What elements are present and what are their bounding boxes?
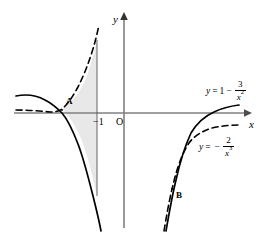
equation-dashed-lhs: y bbox=[199, 142, 203, 152]
equation-solid-lhs: y bbox=[206, 86, 210, 96]
point-b-marker bbox=[171, 188, 173, 190]
equation-solid-leading: 1 bbox=[220, 86, 225, 96]
equation-solid-fraction: 3 x2 bbox=[235, 80, 246, 102]
point-label-b: B bbox=[176, 191, 182, 200]
point-a-marker bbox=[61, 109, 63, 111]
equation-dashed-denominator: x3 bbox=[223, 147, 234, 159]
equation-solid-denominator: x2 bbox=[235, 91, 246, 103]
equation-solid-equals: = bbox=[212, 86, 217, 96]
x-axis-arrowhead bbox=[244, 109, 252, 117]
x-tick-label-minus-1: −1 bbox=[93, 117, 104, 127]
x-axis-label: x bbox=[249, 119, 254, 130]
equation-solid-denominator-exponent: 2 bbox=[241, 88, 244, 95]
point-label-a: A bbox=[66, 97, 73, 106]
equation-solid-label: y = 1 − 3 x2 bbox=[206, 80, 247, 102]
equation-dashed-equals: = bbox=[205, 142, 210, 152]
plot-canvas bbox=[0, 0, 269, 233]
math-figure: y x O −1 A B y = 1 − 3 x2 y = − 2 x3 bbox=[0, 0, 269, 233]
equation-dashed-label: y = − 2 x3 bbox=[199, 136, 235, 158]
origin-label: O bbox=[116, 117, 123, 127]
equation-dashed-denominator-exponent: 3 bbox=[229, 144, 232, 151]
equation-solid-operator: − bbox=[226, 86, 231, 96]
equation-dashed-fraction: 2 x3 bbox=[223, 136, 234, 158]
y-axis-label: y bbox=[113, 14, 118, 25]
equation-dashed-operator: − bbox=[215, 142, 220, 152]
shaded-region bbox=[62, 40, 97, 196]
y-axis-arrowhead bbox=[120, 12, 128, 20]
